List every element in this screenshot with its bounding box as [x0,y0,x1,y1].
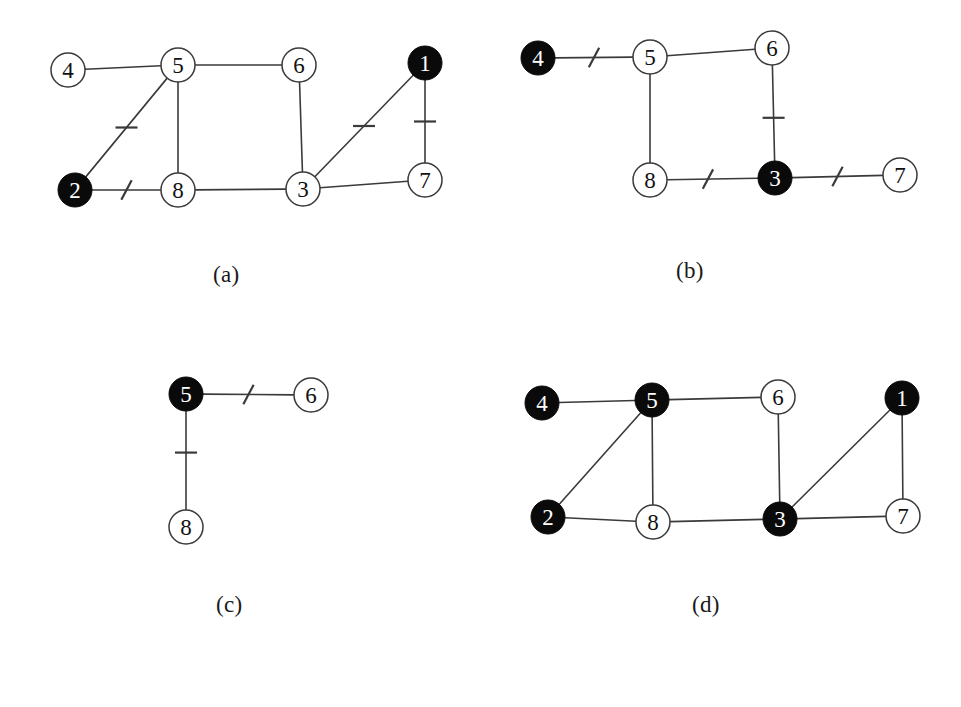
edge-d-5-8 [652,417,653,505]
edge-b-5-6 [667,49,755,56]
node-label: 2 [69,178,81,203]
node-d-4[interactable]: 4 [525,386,559,420]
edge-d-5-2 [559,413,640,505]
panel-caption-d: (d) [692,592,720,618]
node-a-1[interactable]: 1 [408,46,442,80]
node-label: 7 [897,504,909,529]
edge-d-1-7 [902,415,903,499]
edge-a-3-7 [320,181,408,188]
node-label: 3 [769,166,781,191]
edge-b-6-3 [772,65,774,161]
node-label: 6 [293,53,305,78]
node-layer-b: 456837 [521,31,917,197]
node-label: 5 [172,53,184,78]
node-label: 4 [62,58,74,83]
node-d-6[interactable]: 6 [761,380,795,414]
edge-b-8-3 [667,178,758,179]
edge-layer-a [85,65,436,200]
edge-layer-d [559,397,903,521]
node-b-4[interactable]: 4 [521,41,555,75]
edge-a-4-5 [85,66,161,69]
panel-caption-c: (c) [216,592,242,618]
node-label: 1 [419,51,431,76]
node-label: 8 [644,168,656,193]
edge-d-3-1 [792,410,890,507]
node-label: 5 [180,382,192,407]
node-a-6[interactable]: 6 [282,48,316,82]
node-label: 4 [536,391,548,416]
node-d-2[interactable]: 2 [531,500,565,534]
node-a-5[interactable]: 5 [161,48,195,82]
node-d-1[interactable]: 1 [885,381,919,415]
panel-a: 45612837 [51,46,442,207]
node-layer-d: 45612837 [525,380,920,539]
node-a-4[interactable]: 4 [51,53,85,87]
node-label: 3 [297,177,309,202]
node-b-8[interactable]: 8 [633,163,667,197]
node-a-7[interactable]: 7 [408,163,442,197]
node-layer-c: 568 [169,377,328,544]
node-d-5[interactable]: 5 [635,383,669,417]
node-a-2[interactable]: 2 [58,173,92,207]
node-label: 6 [305,383,317,408]
edge-d-3-7 [797,516,886,518]
edge-d-6-3 [778,414,779,502]
node-label: 4 [532,46,544,71]
node-b-3[interactable]: 3 [758,161,792,195]
edge-d-5-6 [669,397,761,399]
node-b-5[interactable]: 5 [633,40,667,74]
node-label: 6 [766,36,778,61]
node-label: 2 [542,505,554,530]
panel-caption-a: (a) [213,262,239,288]
node-label: 7 [894,163,906,188]
node-d-8[interactable]: 8 [636,505,670,539]
panel-caption-b: (b) [676,258,704,284]
node-c-8[interactable]: 8 [169,510,203,544]
node-label: 8 [172,178,184,203]
node-c-6[interactable]: 6 [294,378,328,412]
node-label: 6 [772,385,784,410]
node-label: 8 [180,515,192,540]
node-d-7[interactable]: 7 [886,499,920,533]
edge-a-8-3 [195,189,286,190]
node-b-6[interactable]: 6 [755,31,789,65]
edge-layer-b [555,48,883,189]
node-d-3[interactable]: 3 [763,502,797,536]
edge-d-2-8 [565,518,636,521]
node-label: 5 [646,388,658,413]
node-c-5[interactable]: 5 [169,377,203,411]
node-label: 5 [644,45,656,70]
panel-d: 45612837 [525,380,920,539]
node-a-8[interactable]: 8 [161,173,195,207]
node-label: 1 [896,386,908,411]
graph-figure: 4561283745683756845612837 (a) (b) (c) (d… [0,0,961,707]
graph-canvas: 4561283745683756845612837 [0,0,961,707]
node-b-7[interactable]: 7 [883,158,917,192]
node-label: 7 [419,168,431,193]
panel-b: 456837 [521,31,917,197]
node-label: 3 [774,507,786,532]
edge-d-4-5 [559,400,635,402]
edge-d-8-3 [670,519,763,521]
edge-a-6-3 [300,82,303,172]
node-a-3[interactable]: 3 [286,172,320,206]
node-label: 8 [647,510,659,535]
panel-c: 568 [169,377,328,544]
